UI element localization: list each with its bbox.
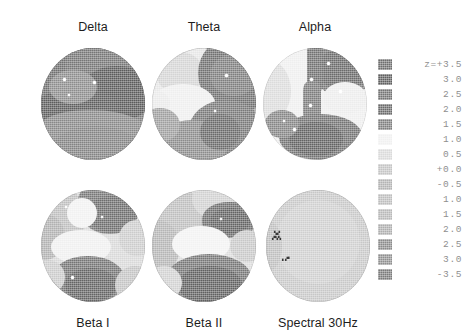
legend-label: 1.5 <box>392 119 466 130</box>
map-panel-spectral-30hz: ▚▞ ▞▚▚ ▖▞▘ Spectral 30Hz <box>266 190 370 302</box>
legend-swatch <box>378 74 392 85</box>
map-panel-delta: Delta <box>41 48 145 160</box>
legend-swatch <box>378 254 392 265</box>
map-panel-theta: Theta <box>152 48 256 160</box>
map-title-alpha: Alpha <box>263 20 367 34</box>
legend-row: 2.5 <box>378 87 466 102</box>
map-panel-alpha: Alpha <box>263 48 367 160</box>
legend-row: 1.0 <box>378 132 466 147</box>
legend-swatch <box>378 194 392 205</box>
headmap-delta <box>41 48 145 160</box>
legend-swatch <box>378 224 392 235</box>
colorbar-legend: z=+3.5 3.0 2.5 2.0 1.5 1.0 0.5 +0.0 <box>378 57 466 282</box>
map-title-beta-2: Beta II <box>152 316 256 330</box>
legend-row: 1.0 <box>378 192 466 207</box>
electrode-marker <box>93 81 96 84</box>
legend-label: z=+3.5 <box>392 59 466 70</box>
map-panel-beta-2: Beta II <box>152 190 256 302</box>
legend-row: 3.0 <box>378 72 466 87</box>
legend-row: 2.0 <box>378 102 466 117</box>
legend-swatch <box>378 149 392 160</box>
legend-label: 1.5 <box>392 209 466 220</box>
map-annotation: ▖▞▘ <box>282 257 291 261</box>
legend-label: +0.0 <box>392 164 466 175</box>
legend-row: 1.5 <box>378 117 466 132</box>
electrode-marker <box>71 276 74 279</box>
legend-label: 1.0 <box>392 134 466 145</box>
legend-label: 2.5 <box>392 89 466 100</box>
legend-swatch <box>378 269 392 280</box>
legend-swatch <box>378 104 392 115</box>
legend-label: 2.0 <box>392 104 466 115</box>
legend-swatch <box>378 134 392 145</box>
eeg-topographic-figure: Delta Theta <box>0 0 471 336</box>
legend-row: 0.5 <box>378 147 466 162</box>
legend-swatch <box>378 89 392 100</box>
electrode-marker <box>101 216 103 218</box>
map-title-beta-1: Beta I <box>41 316 145 330</box>
legend-label: -0.5 <box>392 179 466 190</box>
legend-swatch <box>378 59 392 70</box>
legend-label: 3.0 <box>392 254 466 265</box>
headmap-theta <box>152 48 256 160</box>
legend-row: 2.5 <box>378 237 466 252</box>
legend-label: 0.5 <box>392 149 466 160</box>
headmap-beta-2 <box>152 190 256 302</box>
map-annotation: ▞▚▚ <box>272 236 281 240</box>
electrode-marker <box>310 78 313 81</box>
legend-swatch <box>378 239 392 250</box>
legend-row: -0.5 <box>378 177 466 192</box>
headmap-alpha <box>263 48 367 160</box>
legend-swatch <box>378 209 392 220</box>
electrode-marker <box>214 110 216 112</box>
legend-swatch <box>378 119 392 130</box>
legend-swatch <box>378 179 392 190</box>
electrode-marker <box>339 90 342 93</box>
electrode-marker <box>65 206 67 208</box>
legend-row: +0.0 <box>378 162 466 177</box>
legend-label: 3.0 <box>392 74 466 85</box>
electrode-marker <box>220 218 222 220</box>
legend-row: z=+3.5 <box>378 57 466 72</box>
legend-label: -3.5 <box>392 269 466 280</box>
legend-label: 1.0 <box>392 194 466 205</box>
headmap-spectral-30hz: ▚▞ ▞▚▚ ▖▞▘ <box>266 190 370 302</box>
map-title-delta: Delta <box>41 20 145 34</box>
legend-label: 2.0 <box>392 224 466 235</box>
electrode-marker <box>68 94 70 96</box>
electrode-marker <box>309 104 312 107</box>
headmap-beta-1 <box>41 190 145 302</box>
legend-row: 1.5 <box>378 207 466 222</box>
legend-row: 3.0 <box>378 252 466 267</box>
map-title-spectral-30hz: Spectral 30Hz <box>266 316 370 330</box>
electrode-marker <box>283 120 285 122</box>
electrode-marker <box>63 78 66 81</box>
legend-swatch <box>378 164 392 175</box>
electrode-marker <box>293 128 296 131</box>
electrode-marker <box>327 62 330 65</box>
legend-row: 2.0 <box>378 222 466 237</box>
legend-label: 2.5 <box>392 239 466 250</box>
map-panel-beta-1: Beta I <box>41 190 145 302</box>
legend-row: -3.5 <box>378 267 466 282</box>
electrode-marker <box>225 74 228 77</box>
map-title-theta: Theta <box>152 20 256 34</box>
